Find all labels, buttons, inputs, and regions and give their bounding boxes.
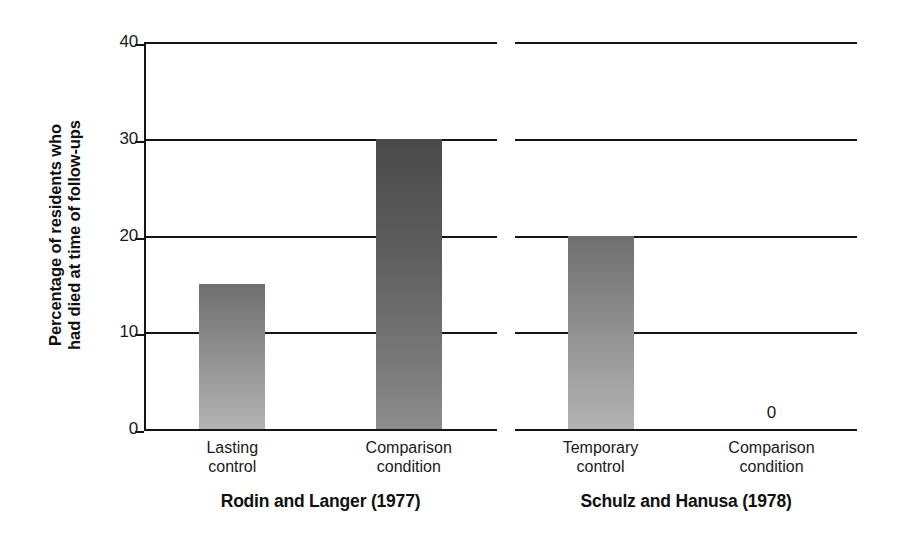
bar <box>199 284 265 429</box>
y-axis-tick-label: 40 <box>96 32 138 52</box>
x-axis-category-label-line: Lasting <box>206 439 258 458</box>
y-axis-tick-labels: 010203040 <box>96 0 138 537</box>
x-axis-category-label-line: Temporary <box>563 439 639 458</box>
bar-chart-figure: Percentage of residents who had died at … <box>0 0 902 537</box>
x-axis-category-label-line: condition <box>728 458 814 477</box>
y-axis-tick-label: 0 <box>96 419 138 439</box>
gridline <box>515 332 857 334</box>
plot-area: 0 <box>515 42 857 429</box>
gridline <box>144 42 497 44</box>
y-axis-tick-label: 30 <box>96 129 138 149</box>
y-axis-tick-mark <box>135 141 144 143</box>
bar <box>376 139 442 429</box>
x-axis-category-label: Lastingcontrol <box>206 439 258 476</box>
gridline <box>144 236 497 238</box>
panel-caption: Rodin and Langer (1977) <box>221 491 421 512</box>
y-axis-tick-label: 20 <box>96 226 138 246</box>
x-axis-category-label-line: Comparison <box>366 439 452 458</box>
x-axis-category-label-line: control <box>206 458 258 477</box>
y-axis-title-line-1: Percentage of residents who <box>46 124 65 346</box>
y-axis-spine <box>144 42 146 429</box>
y-axis-tick-label: 10 <box>96 322 138 342</box>
y-axis-tick-mark <box>135 44 144 46</box>
gridline <box>515 139 857 141</box>
axis-baseline <box>144 429 497 431</box>
y-axis-tick-mark <box>135 431 144 433</box>
x-axis-category-label: Temporarycontrol <box>563 439 639 476</box>
axis-baseline <box>515 429 857 431</box>
chart-panel-schulz-hanusa: 0 <box>515 42 857 429</box>
x-axis-category-label-line: Comparison <box>728 439 814 458</box>
y-axis-title: Percentage of residents who had died at … <box>35 25 95 445</box>
y-axis-tick-mark <box>135 334 144 336</box>
x-axis-category-label: Comparisoncondition <box>366 439 452 476</box>
panel-caption: Schulz and Hanusa (1978) <box>580 491 791 512</box>
x-axis-category-label-line: control <box>563 458 639 477</box>
gridline <box>515 42 857 44</box>
bar-value-label: 0 <box>767 403 776 423</box>
y-axis-title-line-2: had died at time of follow-ups <box>65 120 84 350</box>
gridline <box>144 139 497 141</box>
x-axis-category-label-line: condition <box>366 458 452 477</box>
plot-area <box>144 42 497 429</box>
gridline <box>515 236 857 238</box>
x-axis-category-label: Comparisoncondition <box>728 439 814 476</box>
bar <box>568 236 634 430</box>
y-axis-tick-mark <box>135 238 144 240</box>
chart-panel-rodin-langer <box>144 42 497 429</box>
gridline <box>144 332 497 334</box>
